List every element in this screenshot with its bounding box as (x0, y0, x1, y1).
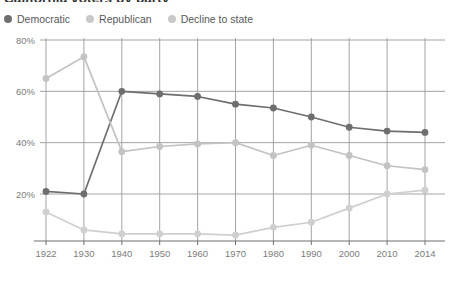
chart-plot-area: 80%60%40%20% 192219301940195019601970198… (0, 0, 451, 282)
x-tick-label: 2010 (377, 248, 398, 259)
y-gridlines (40, 40, 445, 194)
data-point-democratic[interactable] (422, 129, 429, 136)
data-point-democratic[interactable] (81, 191, 88, 198)
data-point-republican[interactable] (232, 139, 239, 146)
x-tick-label: 1960 (187, 248, 208, 259)
data-point-democratic[interactable] (232, 101, 239, 108)
data-point-decline-to-state[interactable] (308, 219, 315, 226)
x-tick-labels: 1922193019401950196019701980199020002010… (35, 241, 435, 259)
data-point-democratic[interactable] (194, 93, 201, 100)
x-tick-label: 1990 (301, 248, 322, 259)
data-point-decline-to-state[interactable] (43, 209, 50, 216)
x-tick-label: 1970 (225, 248, 246, 259)
data-point-decline-to-state[interactable] (194, 230, 201, 237)
data-point-decline-to-state[interactable] (270, 224, 277, 231)
x-tick-label: 2014 (414, 248, 435, 259)
data-point-republican[interactable] (308, 142, 315, 149)
data-point-republican[interactable] (156, 143, 163, 150)
x-tick-label: 1922 (35, 248, 56, 259)
x-tick-label: 1980 (263, 248, 284, 259)
data-point-decline-to-state[interactable] (422, 187, 429, 194)
data-point-democratic[interactable] (270, 105, 277, 112)
data-point-democratic[interactable] (308, 114, 315, 121)
y-tick-labels: 80%60%40%20% (16, 35, 36, 200)
data-point-decline-to-state[interactable] (346, 205, 353, 212)
x-tick-label: 1940 (111, 248, 132, 259)
x-tick-label: 1930 (73, 248, 94, 259)
data-point-republican[interactable] (270, 152, 277, 159)
data-point-democratic[interactable] (384, 128, 391, 135)
data-point-democratic[interactable] (118, 88, 125, 95)
data-point-democratic[interactable] (43, 188, 50, 195)
data-point-republican[interactable] (43, 75, 50, 82)
data-point-decline-to-state[interactable] (156, 230, 163, 237)
y-tick-label: 40% (16, 137, 36, 148)
data-point-republican[interactable] (81, 53, 88, 60)
x-tick-label: 1950 (149, 248, 170, 259)
x-tick-label: 2000 (339, 248, 360, 259)
y-tick-label: 80% (16, 35, 36, 46)
data-point-democratic[interactable] (156, 91, 163, 98)
data-point-democratic[interactable] (346, 124, 353, 131)
data-point-decline-to-state[interactable] (81, 227, 88, 234)
data-point-republican[interactable] (384, 162, 391, 169)
y-tick-label: 20% (16, 189, 36, 200)
chart-container: California voters by party Democratic Re… (0, 0, 451, 282)
data-point-republican[interactable] (194, 141, 201, 148)
data-point-decline-to-state[interactable] (384, 191, 391, 198)
data-point-decline-to-state[interactable] (232, 232, 239, 239)
data-point-republican[interactable] (118, 148, 125, 155)
data-point-republican[interactable] (422, 166, 429, 173)
data-point-republican[interactable] (346, 152, 353, 159)
y-tick-label: 60% (16, 86, 36, 97)
data-point-decline-to-state[interactable] (118, 230, 125, 237)
